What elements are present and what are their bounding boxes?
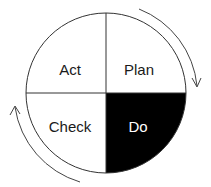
pdca-diagram: Act Plan Check Do	[0, 0, 211, 187]
quadrant-label-do: Do	[128, 118, 147, 135]
quadrant-label-act: Act	[59, 61, 82, 78]
quadrant-label-check: Check	[49, 118, 92, 135]
quadrant-label-plan: Plan	[124, 61, 154, 78]
